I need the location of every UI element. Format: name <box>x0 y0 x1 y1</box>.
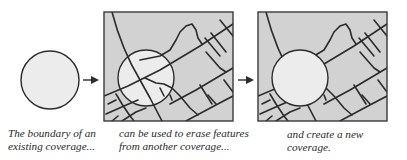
caption-line: existing coverage... <box>8 140 96 153</box>
caption-line: The boundary of an <box>8 127 96 140</box>
arrow-right-icon <box>238 76 254 84</box>
caption-line: can be used to erase features <box>119 127 249 140</box>
caption-line: from another coverage... <box>119 140 249 153</box>
input-coverage-panel <box>104 12 233 121</box>
arrow-right-icon <box>83 76 99 84</box>
caption-line: coverage. <box>287 141 363 154</box>
caption-line: and create a new <box>287 128 363 141</box>
erase-diagram: The boundary of an existing coverage... … <box>0 0 407 160</box>
caption-new-coverage: and create a new coverage. <box>287 128 363 154</box>
boundary-circle <box>21 51 79 109</box>
boundary-coverage-panel <box>21 51 79 109</box>
caption-boundary: The boundary of an existing coverage... <box>8 127 96 153</box>
erased-area-circle <box>272 50 328 106</box>
caption-erase: can be used to erase features from anoth… <box>119 127 249 153</box>
output-coverage-panel <box>258 12 387 121</box>
